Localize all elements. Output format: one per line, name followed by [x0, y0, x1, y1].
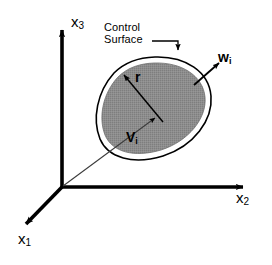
axis-label-x3: x3	[71, 14, 84, 32]
control-surface-label: Control Surface	[104, 22, 143, 45]
axis-label-x1: x1	[18, 231, 31, 249]
normal-vector-label-text: w	[218, 49, 229, 65]
axis-label-x2: x2	[236, 190, 249, 208]
control-surface-label-line2: Surface	[104, 34, 143, 46]
axis-x1-line	[26, 187, 62, 224]
axis-label-x3-text: x	[71, 13, 79, 30]
figure-container: x3 x2 x1 wi Vi r Control Surface	[0, 0, 272, 265]
control-surface-label-line1: Control	[104, 22, 143, 34]
volume-vector-label-text: V	[126, 129, 135, 145]
volume-vector-label: Vi	[126, 130, 138, 146]
normal-vector-label-subscript: i	[229, 56, 232, 66]
axis-label-x3-subscript: 3	[79, 20, 85, 31]
axis-label-x2-text: x	[236, 189, 244, 206]
axis-label-x2-subscript: 2	[244, 196, 250, 207]
radius-label: r	[135, 70, 140, 85]
control-volume-region	[102, 63, 205, 154]
control-surface-leader	[152, 41, 178, 50]
axis-label-x1-text: x	[18, 230, 26, 247]
volume-vector-label-subscript: i	[135, 136, 138, 146]
axis-label-x1-subscript: 1	[26, 237, 32, 248]
normal-vector-label: wi	[218, 50, 231, 66]
